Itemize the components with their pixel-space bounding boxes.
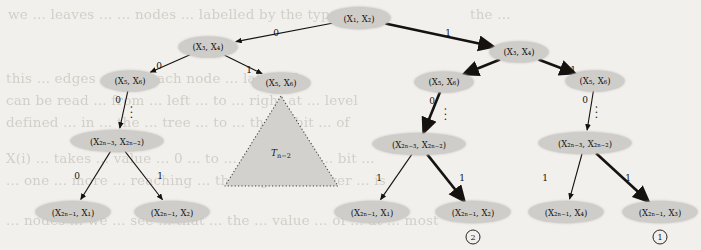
edge-label-RR3-leaf6: 1 [625,173,631,183]
tree-node-L1: (X₃, X₄) [179,37,237,57]
tree-node-label: (X₂ₙ₋₁, X₂) [452,207,495,217]
tree-node-leaf6: (X₂ₙ₋₁, X₃) [623,202,697,223]
decision-tree-figure: (X₁, X₂)(X₃, X₄)(X₃, X₄)(X₅, X₆)(X₅, X₆)… [0,0,701,250]
edge-label-L3-leaf2: 1 [157,171,163,181]
tree-node-label: (X₁, X₂) [344,13,375,23]
vertical-ellipsis-2: ··· [589,105,602,120]
tree-node-label: (X₅, X₆) [429,77,460,87]
tree-node-label: (X₂ₙ₋₁, X₂) [151,207,194,217]
tree-node-R1: (X₃, X₄) [490,42,548,62]
edge-label-RR3-leaf5: 1 [542,173,548,183]
tree-node-label: (X₂ₙ₋₁, X₁) [52,207,95,217]
edge-label-L1-LL2: 0 [156,61,162,71]
vertical-ellipsis-0: ··· [124,105,137,120]
tree-node-L3: (X₂ₙ₋₃, X₂ₙ₋₂) [71,131,163,152]
tree-node-leaf4: (X₂ₙ₋₁, X₂) [436,202,510,223]
tree-node-leaf2: (X₂ₙ₋₁, X₂) [135,202,209,223]
tree-node-LL2: (X₅, X₆) [101,71,159,91]
tree-node-R3: (X₂ₙ₋₃, X₂ₙ₋₂) [373,134,465,155]
tree-node-label: (X₂ₙ₋₁, X₁) [351,207,394,217]
edge-label-RR2-RR3: 0 [582,95,588,105]
tree-node-leaf3: (X₂ₙ₋₁, X₁) [335,202,409,223]
tree-node-label: (X₃, X₄) [504,47,535,57]
tree-node-label: (X₂ₙ₋₃, X₂ₙ₋₂) [90,136,144,146]
edge-label-R3-leaf4: 1 [459,173,465,183]
tree-node-label: (X₅, X₆) [115,76,146,86]
tree-node-label: (X₂ₙ₋₁, X₃) [639,207,682,217]
edge-label-R1-RR2: 1 [570,65,576,75]
tree-node-label: (X₂ₙ₋₃, X₂ₙ₋₂) [392,139,446,149]
subtree-label: Tn−2 [271,148,291,161]
tree-node-label: (X₅, X₆) [266,78,297,88]
circled-marker-text: 1 [657,233,662,242]
edge-label-LL2-L3: 0 [115,95,121,105]
tree-node-LR2: (X₅, X₆) [252,73,310,93]
tree-node-label: (X₂ₙ₋₃, X₂ₙ₋₂) [558,138,612,148]
tree-node-leaf1: (X₂ₙ₋₁, X₁) [36,202,110,223]
tree-node-label: (X₅, X₆) [580,76,611,86]
vertical-ellipsis-1: ··· [438,107,451,122]
tree-node-root: (X₁, X₂) [328,8,390,29]
tree-node-RR3: (X₂ₙ₋₃, X₂ₙ₋₂) [539,133,631,154]
subtree-label-subscript: n−2 [277,152,291,160]
edge-label-R1-RL2: 0 [469,64,475,74]
tree-node-leaf5: (X₂ₙ₋₁, X₄) [529,202,603,223]
tree-node-RL2: (X₅, X₆) [415,72,473,92]
circled-marker-1: 1 [653,230,668,245]
edge-label-R3-leaf3: 1 [376,173,382,183]
tree-node-label: (X₃, X₄) [193,42,224,52]
edge-label-RL2-R3: 0 [429,96,435,106]
circled-marker-2: 2 [466,230,481,245]
tree-node-label: (X₂ₙ₋₁, X₄) [545,207,588,217]
circled-marker-text: 2 [470,233,475,242]
edge-label-L3-leaf1: 0 [74,171,80,181]
edge-label-root-R1: 1 [445,28,451,38]
edge-label-L1-LR2: 1 [246,65,252,75]
edge-label-root-L1: 0 [273,28,279,38]
